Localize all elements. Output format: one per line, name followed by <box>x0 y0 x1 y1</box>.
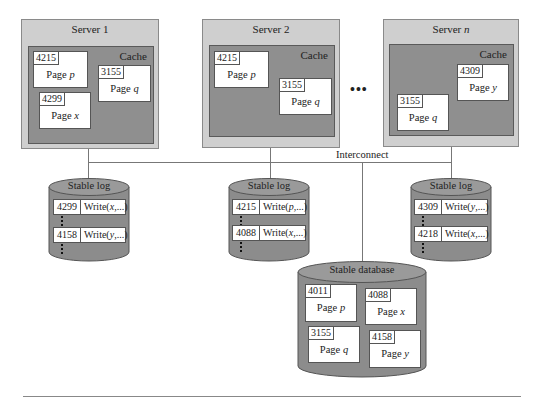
page-lsn: 4309 <box>458 65 483 78</box>
stable-log-2: Stable log 4215 Write(p,...) 4088 Write(… <box>228 178 310 262</box>
cache: Cache 4309 Page y 3155 Page q <box>389 44 514 136</box>
page-name: Page q <box>309 344 359 355</box>
page-lsn: 3155 <box>99 66 124 79</box>
database-page: 3155 Page q <box>308 326 360 363</box>
cached-page: 3155 Page q <box>397 94 449 131</box>
cylinder-title: Stable database <box>297 264 427 275</box>
server-title: Server 1 <box>22 23 158 35</box>
cached-page: 3155 Page q <box>98 65 151 102</box>
page-name: Page q <box>280 96 331 107</box>
server-2: Server 2 Cache 4215 Page p 3155 Page q <box>202 19 340 148</box>
server-n: Server n Cache 4309 Page y 3155 Page q <box>383 19 519 147</box>
cache: Cache 4215 Page p 3155 Page q <box>209 45 335 137</box>
cylinder-title: Stable log <box>48 180 130 191</box>
log-entry: 4218 Write(x,...) <box>414 226 488 242</box>
page-name: Page p <box>306 302 356 313</box>
cylinder-title: Stable log <box>228 180 310 191</box>
page-lsn: 4088 <box>366 289 391 302</box>
cache-label: Cache <box>480 48 507 60</box>
page-lsn: 3155 <box>280 79 305 92</box>
database-page: 4158 Page y <box>369 330 421 368</box>
database-page: 4011 Page p <box>305 284 357 322</box>
page-lsn: 4215 <box>215 52 240 65</box>
connector-server1 <box>88 149 89 181</box>
log-entry: 4158 Write(y,...) <box>53 227 126 243</box>
connector-servern <box>451 147 452 181</box>
stable-log-1: Stable log 4299 Write(x,...) 4158 Write(… <box>48 178 130 262</box>
interconnect-label: Interconnect <box>336 149 388 160</box>
database-page: 4088 Page x <box>365 288 417 325</box>
stable-database: Stable database 4011 Page p 4088 Page x … <box>297 261 427 379</box>
log-entry: 4088 Write(x,...) <box>232 225 306 241</box>
page-lsn: 4158 <box>370 331 395 344</box>
page-lsn: 3155 <box>309 327 334 340</box>
more-servers-ellipsis: ••• <box>350 82 368 98</box>
cached-page: 4309 Page y <box>457 64 509 101</box>
cache-label: Cache <box>301 49 328 61</box>
page-lsn: 4011 <box>306 285 331 298</box>
server-title: Server 2 <box>203 23 339 35</box>
page-name: Page q <box>99 83 150 94</box>
cache-label: Cache <box>120 50 147 62</box>
page-name: Page y <box>458 82 508 93</box>
page-name: Page x <box>366 306 416 317</box>
cached-page: 4299 Page x <box>39 92 91 129</box>
log-entry: 4309 Write(y,...) <box>414 199 488 215</box>
cache: Cache 4215 Page p 3155 Page q 4299 Page … <box>28 46 154 144</box>
bottom-rule <box>23 396 521 397</box>
page-name: Page x <box>40 110 90 121</box>
log-entry: 4299 Write(x,...) <box>53 199 126 215</box>
cached-page: 4215 Page p <box>33 51 88 88</box>
page-name: Page p <box>215 69 268 80</box>
stable-log-n: Stable log 4309 Write(y,...) 4218 Write(… <box>410 178 492 262</box>
cached-page: 3155 Page q <box>279 78 332 115</box>
page-lsn: 3155 <box>398 95 423 108</box>
ellipsis-dots <box>240 242 243 254</box>
server-1: Server 1 Cache 4215 Page p 3155 Page q 4… <box>21 19 159 149</box>
page-name: Page y <box>370 348 420 359</box>
log-entry: 4215 Write(p,...) <box>232 199 306 215</box>
page-lsn: 4299 <box>40 93 65 106</box>
page-lsn: 4215 <box>34 52 59 65</box>
cylinder-title: Stable log <box>410 180 492 191</box>
cached-page: 4215 Page p <box>214 51 269 88</box>
server-title: Server n <box>384 23 518 35</box>
connector-database <box>362 162 363 263</box>
ellipsis-dots <box>422 243 425 255</box>
connector-server2 <box>270 148 271 181</box>
page-name: Page q <box>398 112 448 123</box>
ellipsis-dots <box>61 244 64 256</box>
page-name: Page p <box>34 69 87 80</box>
